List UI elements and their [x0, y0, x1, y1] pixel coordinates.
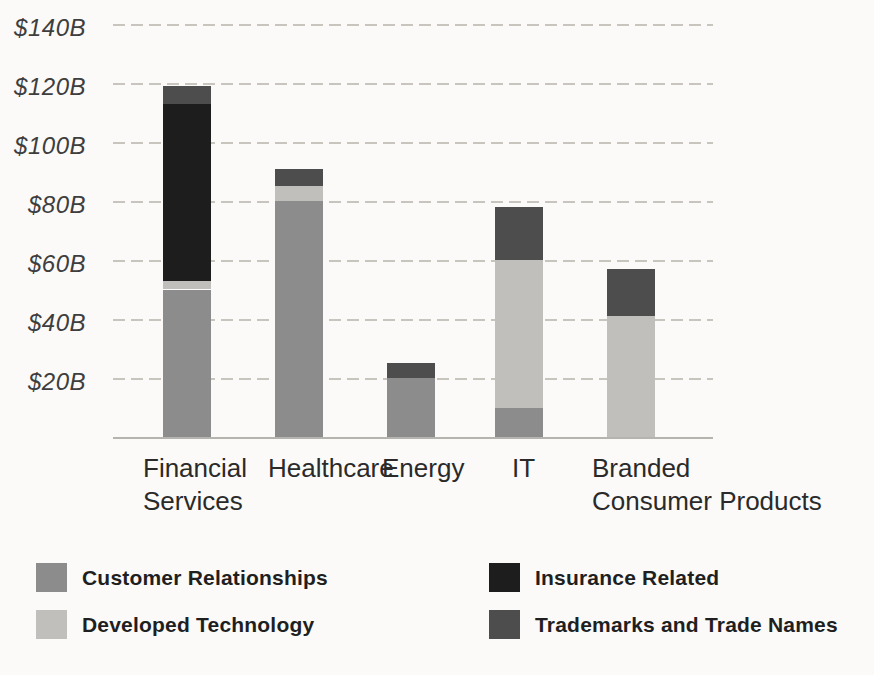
legend-swatch-developed-technology: [36, 610, 67, 639]
legend-item-developed-technology: Developed Technology: [36, 610, 314, 639]
stacked-bar-chart: $140B$120B$100B$80B$60B$40B$20BFinancial…: [0, 0, 874, 675]
legend-item-customer-relationships: Customer Relationships: [36, 563, 328, 592]
legend-label-developed-technology: Developed Technology: [82, 613, 314, 637]
legend-swatch-trademarks-and-trade-names: [489, 610, 520, 639]
legend-item-trademarks-and-trade-names: Trademarks and Trade Names: [489, 610, 838, 639]
legend-swatch-customer-relationships: [36, 563, 67, 592]
legend-label-customer-relationships: Customer Relationships: [82, 566, 328, 590]
legend-swatch-insurance-related: [489, 563, 520, 592]
legend-item-insurance-related: Insurance Related: [489, 563, 719, 592]
legend-label-insurance-related: Insurance Related: [535, 566, 719, 590]
legend-label-trademarks-and-trade-names: Trademarks and Trade Names: [535, 613, 838, 637]
chart-legend: Customer RelationshipsDeveloped Technolo…: [0, 0, 874, 675]
